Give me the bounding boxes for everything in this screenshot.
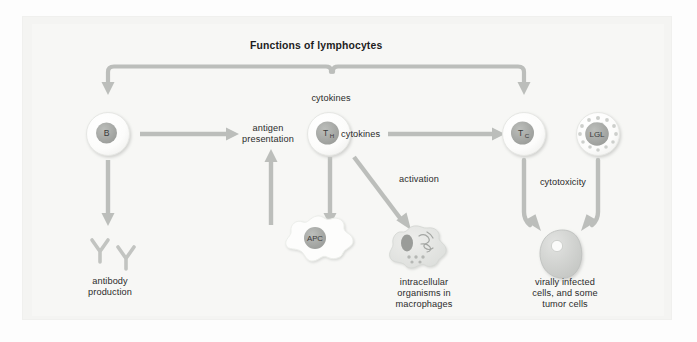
arrow-th-to-macrophage-activation: [354, 157, 411, 230]
label-antibody-production: antibody production: [68, 276, 152, 298]
arrow-th-cytokines-bracket: [108, 67, 524, 85]
cell-macrophage: [390, 226, 447, 268]
svg-text:T: T: [323, 128, 329, 138]
arrowhead-to-b-cell: [102, 82, 115, 95]
arrow-apc-to-th: [265, 149, 278, 225]
label-cytotoxicity: cytotoxicity: [525, 177, 601, 188]
cell-label-b: B: [104, 128, 110, 138]
label-cytokines-top: cytokines: [298, 93, 364, 104]
arrow-tc-to-target-cell: [524, 160, 541, 231]
label-virally-infected-cells: virally infected cells, and some tumor c…: [515, 277, 615, 310]
page-title: Functions of lymphocytes: [250, 40, 382, 51]
arrow-b-to-antibody-production: [102, 160, 115, 226]
arrowhead-to-tc-cell: [518, 82, 531, 95]
cell-label-lgl: LGL: [589, 130, 605, 139]
svg-text:C: C: [525, 132, 530, 139]
antibody-1: [92, 240, 108, 262]
arrow-th-to-tc-cytokines: [388, 128, 505, 141]
cell-label-apc: APC: [307, 234, 323, 243]
svg-text:T: T: [518, 128, 524, 138]
arrow-lgl-to-target-cell: [581, 160, 598, 231]
antibody-molecules: [92, 240, 134, 269]
antibody-2: [118, 247, 134, 269]
label-activation: activation: [385, 174, 453, 185]
label-cytokines-right: cytokines: [341, 129, 399, 140]
figure-immunology-lymphocyte-functions: B T H T C: [0, 0, 697, 342]
svg-text:H: H: [330, 132, 334, 139]
arrow-th-to-apc: [324, 157, 337, 226]
cell-target-virally-infected: [540, 230, 582, 278]
label-antigen-presentation: antigen presentation: [232, 123, 304, 145]
arrow-b-to-antigen-presentation: [140, 128, 239, 141]
label-intracellular-organisms: intracellular organisms in macrophages: [378, 277, 470, 310]
